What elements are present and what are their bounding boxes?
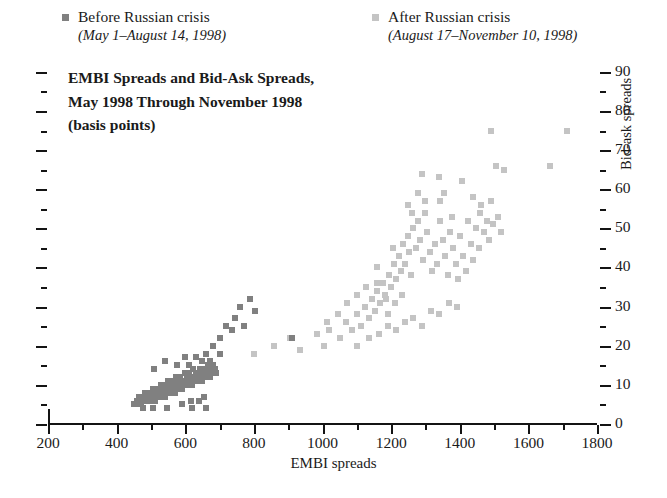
data-point (229, 327, 235, 333)
data-point (473, 225, 479, 231)
legend-item-after-crisis: After Russian crisis (August 17–November… (372, 8, 577, 45)
data-point (493, 163, 499, 169)
y-axis-left-minor-tick (41, 170, 47, 172)
data-point (419, 171, 425, 177)
y-axis-right-major-tick (600, 150, 611, 152)
data-point (324, 319, 330, 325)
y-axis-tick-label: 20 (615, 336, 631, 354)
data-point (151, 366, 157, 372)
y-axis-left-minor-tick (41, 248, 47, 250)
y-axis-right-minor-tick (600, 248, 606, 250)
data-point (392, 300, 398, 306)
legend-period-before: (May 1–August 14, 1998) (78, 27, 226, 45)
data-point (232, 315, 238, 321)
data-point (409, 210, 415, 216)
data-point (241, 323, 247, 329)
data-point (463, 268, 469, 274)
data-point (217, 335, 223, 341)
data-point (314, 331, 320, 337)
data-point (174, 362, 180, 368)
x-axis-tick-label: 200 (18, 434, 78, 452)
data-point (326, 327, 332, 333)
data-point (455, 276, 461, 282)
data-point (422, 210, 428, 216)
x-axis-major-tick (117, 425, 119, 434)
y-axis-right-major-tick (600, 189, 611, 191)
y-axis-right-minor-tick (600, 209, 606, 211)
data-point (217, 351, 223, 357)
x-axis-minor-tick (220, 425, 222, 430)
legend-item-before-crisis: Before Russian crisis (May 1–August 14, … (62, 8, 226, 45)
data-point (354, 292, 360, 298)
data-point (460, 253, 466, 259)
data-point (465, 218, 471, 224)
data-point (150, 405, 156, 411)
data-point (417, 237, 423, 243)
data-point (289, 335, 295, 341)
y-axis-left-major-tick (36, 424, 47, 426)
data-point (297, 347, 303, 353)
data-point (344, 300, 350, 306)
legend-label-after: After Russian crisis (388, 8, 577, 27)
y-axis-right-minor-tick (600, 131, 606, 133)
data-point (453, 261, 459, 267)
data-point (424, 229, 430, 235)
data-point (199, 358, 205, 364)
data-point (366, 315, 372, 321)
data-point (271, 343, 277, 349)
y-axis-right-minor-tick (600, 287, 606, 289)
y-axis-left-major-tick (36, 228, 47, 230)
data-point (252, 308, 258, 314)
y-axis-left-major-tick (36, 385, 47, 387)
x-axis-tick-label: 1200 (361, 434, 421, 452)
data-point (362, 304, 368, 310)
data-point (321, 343, 327, 349)
x-axis-tick-label: 1400 (430, 434, 490, 452)
data-point (337, 335, 343, 341)
data-point (402, 261, 408, 267)
data-point (564, 128, 570, 134)
data-point (188, 398, 194, 404)
data-point (372, 308, 378, 314)
data-point (393, 276, 399, 282)
data-point (251, 351, 257, 357)
data-point (486, 237, 492, 243)
data-point (440, 237, 446, 243)
data-point (468, 241, 474, 247)
data-point (410, 315, 416, 321)
y-axis-left-major-tick (36, 307, 47, 309)
data-point (490, 221, 496, 227)
data-point (450, 245, 456, 251)
data-point (380, 280, 386, 286)
data-point (415, 218, 421, 224)
y-axis-right-major-tick (600, 72, 611, 74)
data-point (369, 296, 375, 302)
data-point (193, 354, 199, 360)
data-point (210, 343, 216, 349)
chart-canvas: Before Russian crisis (May 1–August 14, … (0, 0, 667, 498)
y-axis-right-minor-tick (600, 404, 606, 406)
data-point (442, 253, 448, 259)
data-point (437, 198, 443, 204)
y-axis-left-minor-tick (41, 287, 47, 289)
y-axis-right-minor-tick (600, 326, 606, 328)
x-axis-minor-tick (357, 425, 359, 430)
data-point (186, 362, 192, 368)
data-point (247, 296, 253, 302)
y-axis-left-major-tick (36, 72, 47, 74)
data-point (179, 401, 185, 407)
y-axis-left-major-tick (36, 267, 47, 269)
data-point (349, 327, 355, 333)
data-point (383, 296, 389, 302)
data-point (398, 268, 404, 274)
data-point (182, 354, 188, 360)
data-point (547, 163, 553, 169)
data-point (501, 167, 507, 173)
x-axis-minor-tick (563, 425, 565, 430)
x-axis-tick-label: 1800 (567, 434, 627, 452)
data-point (393, 327, 399, 333)
data-point (405, 233, 411, 239)
data-point (449, 214, 455, 220)
y-axis-left-major-tick (36, 150, 47, 152)
data-point (445, 272, 451, 278)
